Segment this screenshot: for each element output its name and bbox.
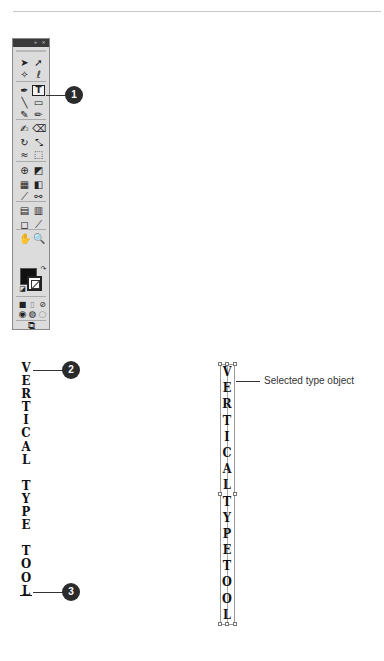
symbol-sprayer-tool-icon[interactable]: ▤ — [18, 205, 31, 216]
callout-1: 1 — [65, 86, 83, 104]
glyph: V — [222, 364, 233, 380]
magic-wand-tool-icon[interactable]: ✧ — [18, 69, 31, 80]
pen-tool-icon[interactable]: ✒ — [18, 85, 31, 96]
separator — [16, 161, 46, 162]
glyph: L — [222, 607, 233, 623]
separator — [16, 201, 46, 202]
glyph: E — [222, 542, 233, 558]
glyph: O — [222, 574, 233, 590]
selection-handle[interactable] — [225, 362, 229, 366]
glyph: A — [222, 461, 233, 477]
gradient-tool-icon[interactable]: ◧ — [32, 179, 45, 190]
default-colors-icon[interactable]: ◪ — [16, 284, 29, 295]
vertical-type-sample: VERTICAL TYPE TOOL — [20, 361, 32, 597]
shape-builder-tool-icon[interactable]: ⊕ — [18, 165, 31, 176]
glyph: C — [222, 445, 233, 461]
column-graph-tool-icon[interactable]: ▥ — [32, 205, 45, 216]
selection-handle[interactable] — [218, 492, 222, 496]
screen-mode-icon[interactable]: ⧉ — [25, 320, 38, 331]
selection-handle[interactable] — [225, 622, 229, 626]
eraser-tool-icon[interactable]: ⌫ — [32, 123, 45, 134]
swap-fill-stroke-icon[interactable]: ↷ — [37, 264, 50, 275]
text-baseline — [20, 595, 32, 596]
lasso-tool-icon[interactable]: ℓ — [32, 69, 45, 80]
warp-tool-icon[interactable]: ≈ — [18, 149, 31, 160]
selection-handle[interactable] — [233, 362, 237, 366]
glyph: I — [222, 429, 233, 445]
scale-tool-icon[interactable]: ⤡ — [32, 137, 45, 148]
selection-tool-icon[interactable]: ➤ — [18, 57, 31, 68]
glyph: E — [222, 380, 233, 396]
hand-tool-icon[interactable]: ✋ — [18, 233, 31, 244]
separator — [16, 81, 46, 82]
glyph: T — [222, 413, 233, 429]
separator — [16, 296, 46, 297]
vertical-type-tool-icon[interactable]: T — [32, 85, 45, 96]
separator — [16, 119, 46, 120]
stroke-swatch[interactable] — [27, 276, 42, 291]
glyph: L — [222, 477, 233, 493]
callout-3: 3 — [62, 583, 80, 601]
none-icon — [31, 280, 40, 289]
glyph: O — [222, 591, 233, 607]
blob-brush-tool-icon[interactable]: ✍ — [18, 123, 31, 134]
callout-line-3 — [33, 592, 63, 593]
tools-panel: » × ➤➚✧ℓ✒T╲▭✎✏✍⌫↻⤡≈⬚⊕◩▦◧⟋⚯▤▥◻⟋✋🔍 ↷ ◪ ■ ▯… — [12, 38, 50, 330]
collapse-icon[interactable]: » — [33, 40, 38, 45]
line-segment-tool-icon[interactable]: ╲ — [18, 97, 31, 108]
free-transform-tool-icon[interactable]: ⬚ — [32, 149, 45, 160]
glyph: P — [222, 526, 233, 542]
callout-line-2 — [33, 370, 63, 371]
rotate-tool-icon[interactable]: ↻ — [18, 137, 31, 148]
draw-inside-icon[interactable]: ○ — [36, 309, 49, 320]
selected-type-object[interactable]: VERTICALTYPETOOL — [221, 364, 233, 623]
glyph: T — [222, 494, 233, 510]
separator — [16, 229, 46, 230]
close-icon[interactable]: × — [41, 40, 46, 45]
rectangle-tool-icon[interactable]: ▭ — [32, 97, 45, 108]
glyph: T — [222, 558, 233, 574]
selected-type-object-label: Selected type object — [264, 375, 354, 386]
label-leader-line — [236, 381, 260, 382]
mesh-tool-icon[interactable]: ▦ — [18, 179, 31, 190]
selection-handle[interactable] — [233, 622, 237, 626]
glyph: R — [222, 396, 233, 412]
selection-handle[interactable] — [218, 622, 222, 626]
selection-handle[interactable] — [233, 492, 237, 496]
callout-2: 2 — [62, 361, 80, 379]
perspective-grid-tool-icon[interactable]: ◩ — [32, 165, 45, 176]
callout-line-1 — [46, 95, 66, 96]
top-rule — [13, 11, 381, 12]
tools-panel-titlebar[interactable]: » × — [13, 39, 49, 47]
zoom-tool-icon[interactable]: 🔍 — [32, 233, 45, 244]
selection-handle[interactable] — [218, 362, 222, 366]
panel-grip[interactable] — [16, 50, 46, 52]
glyph: Y — [222, 510, 233, 526]
direct-selection-tool-icon[interactable]: ➚ — [32, 57, 45, 68]
